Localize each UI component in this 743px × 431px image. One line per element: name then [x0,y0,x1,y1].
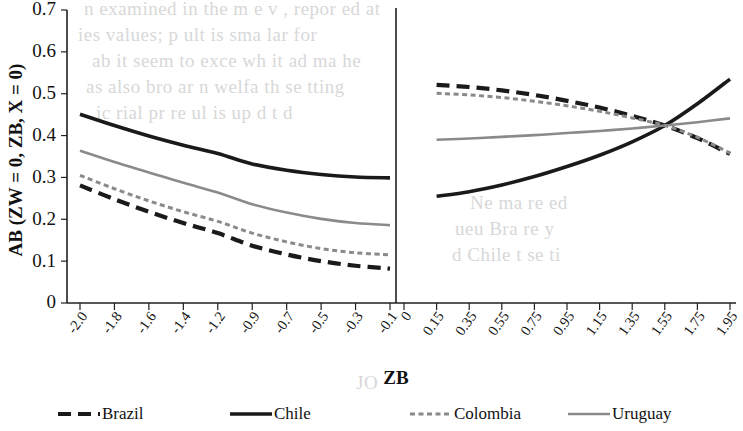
x-tick-label: -1.2 [202,308,228,336]
x-axis-title: ZB [383,367,409,388]
x-tick-label: -2.0 [64,308,90,336]
y-tick-group: 00.10.20.30.40.50.60.7 [32,0,67,312]
y-tick-label: 0.2 [32,208,56,229]
legend-group: BrazilChileColombiaUruguay [58,404,672,423]
y-tick-label: 0.5 [32,82,56,103]
y-axis-title: AB (ZW = 0, ZB, X = 0) [5,64,27,257]
legend-label-uruguay: Uruguay [612,404,672,423]
x-tick-label: 0.75 [517,308,545,338]
x-tick-label: 1.15 [582,308,610,338]
legend-label-brazil: Brazil [102,404,144,423]
x-tick-label: 1.95 [713,308,741,338]
x-tick-label: -0.9 [236,308,262,336]
series-line-uruguay [437,118,730,139]
x-tick-label: -0.1 [374,308,400,336]
y-tick-label: 0.7 [32,0,56,19]
series-group [80,79,730,269]
x-tick-label: 0.95 [550,308,578,338]
x-tick-label: 1.55 [647,308,675,338]
x-tick-label: -0.3 [340,308,366,336]
plot-svg: 00.10.20.30.40.50.60.7 -2.0-1.8-1.6-1.4-… [0,0,743,431]
x-tick-label: 1.35 [615,308,643,338]
y-tick-label: 0 [47,291,57,312]
x-tick-label: 0.55 [484,308,512,338]
x-tick-label: 0.35 [452,308,480,338]
x-tick-label: 1.75 [680,308,708,338]
x-tick-label: 0.15 [419,308,447,338]
x-tick-label: -1.8 [98,308,124,336]
x-tick-label: 0 [397,308,414,323]
series-line-colombia [80,175,390,255]
chart-figure: n examined in the m e v , repor ed at ie… [0,0,743,431]
y-tick-label: 0.3 [32,166,56,187]
series-line-chile [80,114,390,178]
series-line-uruguay [80,151,390,226]
x-tick-label: -1.6 [133,308,159,336]
x-tick-group: -2.0-1.8-1.6-1.4-1.2-0.9-0.7-0.5-0.3-0.1… [64,303,740,338]
x-tick-label: -0.5 [305,308,331,336]
legend-label-chile: Chile [274,404,311,423]
y-tick-label: 0.4 [32,124,56,145]
axes-group [67,8,736,303]
x-tick-label: -1.4 [167,308,194,337]
y-tick-label: 0.6 [32,40,56,61]
legend-label-colombia: Colombia [454,404,522,423]
x-tick-label: -0.7 [271,308,297,336]
y-tick-label: 0.1 [32,250,56,271]
